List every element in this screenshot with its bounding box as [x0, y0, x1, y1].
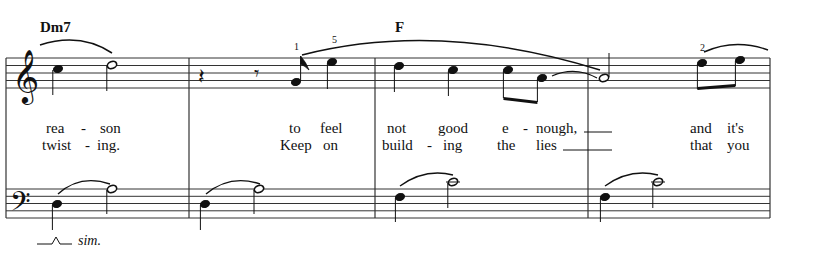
- pedal-mark-icon: [37, 237, 72, 244]
- fingering: 1: [294, 41, 299, 52]
- chord-symbol-dm7: Dm7: [40, 19, 71, 36]
- note-head: [106, 60, 117, 70]
- lyric-syllable: ing: [443, 137, 462, 154]
- bass-clef-icon: 𝄢: [10, 186, 31, 224]
- lyric-syllable: e: [502, 120, 509, 137]
- treble-staff: [6, 58, 770, 88]
- lyric-syllable: it's: [727, 120, 744, 137]
- lyric-syllable: not: [387, 120, 406, 137]
- fingering: 2: [700, 42, 705, 53]
- note-head: [537, 73, 548, 83]
- lyric-syllable: twist: [42, 137, 71, 154]
- eighth-rest-icon: 𝄾: [254, 61, 259, 85]
- simile-marking: sim.: [78, 233, 101, 249]
- lyric-syllable: the: [497, 137, 515, 154]
- lyric-hyphen: -: [85, 137, 90, 154]
- fingering: 5: [332, 34, 337, 45]
- note-head: [253, 184, 264, 194]
- lyric-syllable: ing.: [97, 137, 120, 154]
- note-head: [598, 73, 609, 83]
- note-head: [735, 55, 746, 65]
- lyric-syllable: Keep: [280, 137, 312, 154]
- lyric-syllable: nough,: [536, 120, 577, 137]
- note-head: [600, 192, 611, 202]
- note-head: [395, 192, 406, 202]
- lyric-syllable: son: [100, 120, 121, 137]
- lyric-syllable: rea: [46, 120, 64, 137]
- bass-staff: [6, 189, 770, 218]
- note-head: [200, 199, 211, 209]
- lyric-syllable: on: [323, 137, 338, 154]
- lyric-syllable: build: [382, 137, 413, 154]
- chord-symbol-f: F: [395, 19, 404, 36]
- note-head: [291, 77, 302, 87]
- note-head: [394, 61, 405, 71]
- lyric-syllable: that: [690, 137, 713, 154]
- note-head: [106, 184, 117, 194]
- lyric-syllable: you: [727, 137, 750, 154]
- lyric-syllable: feel: [320, 120, 342, 137]
- treble-clef-icon: 𝄞: [12, 49, 39, 105]
- lyric-hyphen: -: [427, 137, 432, 154]
- lyric-hyphen: -: [81, 120, 86, 137]
- lyric-syllable: lies: [536, 137, 557, 154]
- quarter-rest-icon: 𝄽: [198, 64, 205, 89]
- note-head: [52, 199, 63, 209]
- lyric-syllable: to: [289, 120, 301, 137]
- lyric-hyphen: -: [523, 120, 528, 137]
- note-head: [697, 58, 708, 68]
- lyric-syllable: good: [438, 120, 468, 137]
- lyric-syllable: and: [690, 120, 712, 137]
